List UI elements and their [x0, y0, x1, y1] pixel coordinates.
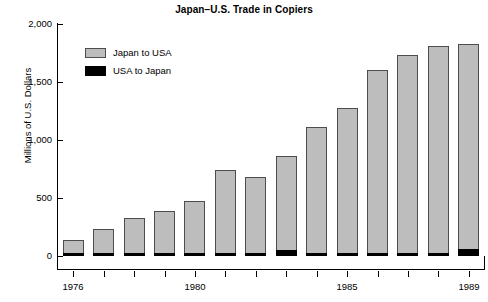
- bar-japan-to-usa-1982: [245, 177, 266, 256]
- legend-label: USA to Japan: [113, 65, 171, 76]
- bar-japan-to-usa-1978: [124, 218, 145, 256]
- chart-container: Japan–U.S. Trade in Copiers Millions of …: [0, 0, 488, 302]
- bar-usa-to-japan-1981: [215, 253, 236, 256]
- gray-swatch-icon: [85, 48, 106, 58]
- bar-japan-to-usa-1980: [184, 201, 205, 256]
- legend-item-usa-to-japan: USA to Japan: [85, 63, 172, 78]
- bar-usa-to-japan-1987: [397, 253, 418, 256]
- bar-japan-to-usa-1984: [306, 127, 327, 256]
- bar-usa-to-japan-1976: [63, 253, 84, 256]
- bar-japan-to-usa-1979: [154, 211, 175, 256]
- bar-usa-to-japan-1985: [337, 253, 358, 256]
- bar-japan-to-usa-1985: [337, 108, 358, 256]
- bar-japan-to-usa-1977: [93, 229, 114, 256]
- bar-usa-to-japan-1982: [245, 253, 266, 256]
- bar-usa-to-japan-1989: [458, 249, 479, 256]
- bar-usa-to-japan-1980: [184, 253, 205, 256]
- bar-usa-to-japan-1988: [428, 253, 449, 256]
- bar-japan-to-usa-1983: [276, 156, 297, 256]
- bar-japan-to-usa-1981: [215, 170, 236, 256]
- bar-japan-to-usa-1988: [428, 46, 449, 256]
- chart-legend: Japan to USA USA to Japan: [85, 45, 172, 81]
- bar-japan-to-usa-1986: [367, 70, 388, 256]
- bars-layer: [0, 0, 488, 302]
- black-swatch-icon: [85, 66, 106, 76]
- legend-item-japan-to-usa: Japan to USA: [85, 45, 172, 60]
- bar-usa-to-japan-1984: [306, 253, 327, 256]
- bar-japan-to-usa-1987: [397, 55, 418, 256]
- bar-usa-to-japan-1986: [367, 253, 388, 256]
- legend-label: Japan to USA: [113, 47, 172, 58]
- bar-usa-to-japan-1977: [93, 253, 114, 256]
- bar-usa-to-japan-1979: [154, 253, 175, 256]
- bar-usa-to-japan-1983: [276, 250, 297, 256]
- bar-japan-to-usa-1989: [458, 44, 479, 256]
- bar-usa-to-japan-1978: [124, 253, 145, 256]
